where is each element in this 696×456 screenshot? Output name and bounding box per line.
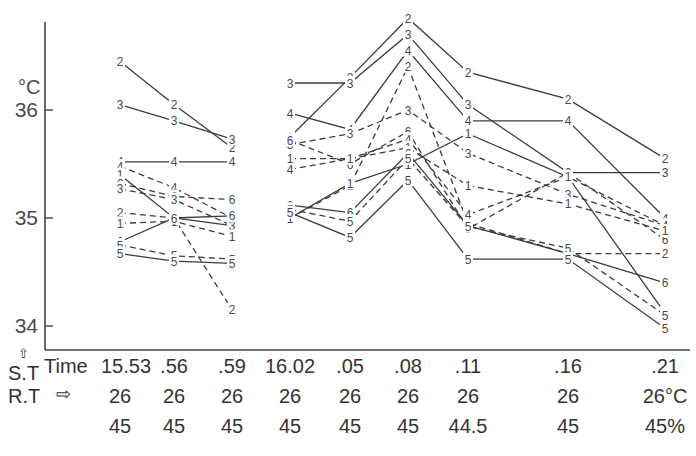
row-hum-cell: 45%: [645, 415, 685, 438]
row-time-cell: .56: [160, 355, 188, 378]
point-label: 1: [117, 217, 124, 231]
point-label: 3: [405, 104, 412, 118]
point-label: 4: [229, 155, 236, 169]
row-rt-cell: 26: [221, 385, 243, 408]
point-label: 1: [565, 170, 572, 184]
point-label: 1: [287, 152, 294, 166]
point-label: 5: [405, 174, 412, 188]
point-label: 6: [287, 134, 294, 148]
point-label: 6: [171, 212, 178, 226]
point-label: 3: [287, 77, 294, 91]
row-hum-cell: 45: [221, 415, 243, 438]
point-label: 5: [287, 206, 294, 220]
point-label: 5: [662, 322, 669, 336]
point-label: 3: [347, 127, 354, 141]
point-label: 2: [662, 152, 669, 166]
row-rt-cell: 26: [557, 385, 579, 408]
point-label: 5: [662, 309, 669, 323]
y-tick-label: 35: [15, 206, 38, 229]
y-tick-label: 36: [15, 98, 38, 121]
row-rt-cell: 26: [109, 385, 131, 408]
point-label: 6: [229, 209, 236, 223]
point-label: 1: [229, 230, 236, 244]
row-time-cell: .16: [554, 355, 582, 378]
room-temp-label: R.T: [8, 385, 40, 408]
point-label: 2: [405, 60, 412, 74]
point-label: 5: [117, 247, 124, 261]
point-label: 1: [662, 224, 669, 238]
skin-temp-label: S.T: [8, 362, 39, 385]
row-hum-cell: 45: [557, 415, 579, 438]
point-label: 2: [229, 303, 236, 317]
point-label: 3: [171, 193, 178, 207]
point-label: 4: [465, 114, 472, 128]
row-rt-cell: 26: [339, 385, 361, 408]
arrow-up-icon: ⇧: [18, 346, 29, 361]
row-rt-cell: 26: [397, 385, 419, 408]
point-label: 5: [565, 253, 572, 267]
row-hum-cell: 45: [163, 415, 185, 438]
y-unit-label: °C: [18, 76, 40, 98]
point-label: 3: [347, 77, 354, 91]
point-label: 2: [405, 12, 412, 26]
point-label: 3: [117, 98, 124, 112]
point-label: 4: [287, 107, 294, 121]
point-label: 3: [465, 147, 472, 161]
point-label: 5: [347, 231, 354, 245]
row-time-cell: .08: [394, 355, 422, 378]
point-labels: 2223334444441116663332221116665555552222…: [115, 11, 670, 335]
axes: [45, 22, 690, 350]
point-label: 5: [465, 220, 472, 234]
row-rt-cell: 26°C: [643, 385, 688, 408]
point-label: 2: [662, 247, 669, 261]
row-time-cell: 16.02: [265, 355, 315, 378]
point-label: 4: [565, 114, 572, 128]
point-label: 3: [405, 28, 412, 42]
point-label: 5: [171, 255, 178, 269]
point-label: 3: [117, 182, 124, 196]
point-label: 3: [229, 133, 236, 147]
series-lines: [120, 18, 665, 328]
row-rt-cell: 26: [279, 385, 301, 408]
row-time-cell: .21: [651, 355, 679, 378]
point-label: 4: [405, 44, 412, 58]
point-label: 6: [229, 193, 236, 207]
row-hum-cell: 44.5: [449, 415, 488, 438]
row-time-cell: 15.53: [101, 355, 151, 378]
time-prefix-label: Time: [44, 355, 88, 378]
point-label: 3: [662, 166, 669, 180]
point-label: 2: [465, 66, 472, 80]
y-tick-label: 34: [15, 314, 39, 337]
row-time-cell: .05: [336, 355, 364, 378]
point-label: 6: [662, 276, 669, 290]
row-time-cell: .11: [455, 355, 481, 378]
y-ticks: 343536: [15, 98, 53, 337]
point-label: 1: [465, 179, 472, 193]
point-label: 1: [565, 197, 572, 211]
point-label: 5: [405, 152, 412, 166]
point-label: 2: [117, 55, 124, 69]
arrow-right-icon: ⇨: [56, 383, 71, 405]
point-label: 3: [171, 114, 178, 128]
point-label: 5: [229, 257, 236, 271]
point-label: 5: [347, 215, 354, 229]
row-time-cell: .59: [218, 355, 246, 378]
row-hum-cell: 45: [397, 415, 419, 438]
row-hum-cell: 45: [279, 415, 301, 438]
point-label: 1: [347, 152, 354, 166]
point-label: 4: [171, 155, 178, 169]
row-rt-cell: 26: [457, 385, 479, 408]
row-hum-cell: 45: [109, 415, 131, 438]
point-label: 2: [565, 93, 572, 107]
point-label: 3: [465, 98, 472, 112]
row-rt-cell: 26: [163, 385, 185, 408]
point-label: 5: [465, 253, 472, 267]
point-label: 1: [347, 177, 354, 191]
point-label: 2: [171, 98, 178, 112]
point-label: 1: [465, 127, 472, 141]
row-hum-cell: 45: [339, 415, 361, 438]
